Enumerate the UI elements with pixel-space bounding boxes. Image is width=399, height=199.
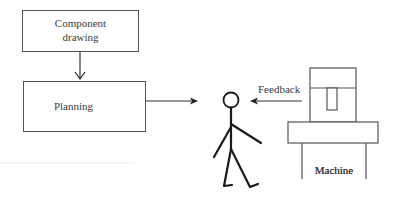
diagram-canvas: Component drawing Planning Feedback Mach…	[0, 0, 399, 199]
machine-table	[288, 122, 378, 143]
machine-spindle	[327, 88, 337, 110]
arrow-feedback-to-person	[250, 98, 302, 105]
person-arm-right	[231, 124, 261, 143]
person-leg-right	[231, 149, 258, 187]
machine-label-overlay: Machine	[302, 163, 366, 177]
arrow-planning-to-person	[146, 98, 198, 105]
component-drawing-line2: drawing	[22, 30, 139, 44]
machine-head	[310, 68, 356, 122]
person-arm-left	[214, 127, 231, 157]
person-figure	[214, 93, 261, 188]
component-drawing-line1: Component	[22, 16, 139, 30]
person-leg-left	[224, 149, 232, 186]
planning-label: Planning	[23, 99, 124, 113]
person-head	[224, 93, 239, 108]
component-drawing-label: Component drawing	[22, 16, 139, 44]
arrow-component-to-planning	[75, 52, 85, 79]
feedback-label: Feedback	[258, 82, 302, 96]
